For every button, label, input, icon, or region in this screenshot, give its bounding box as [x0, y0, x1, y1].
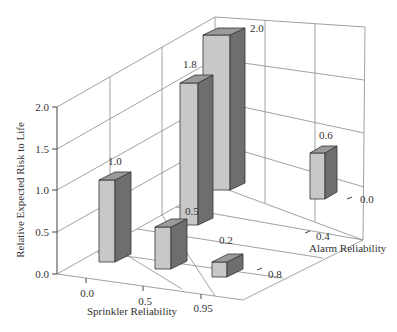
svg-text:0.6: 0.6 [319, 129, 333, 141]
svg-text:0.5: 0.5 [35, 226, 49, 238]
chart-3d-bar: 2.0 1.5 1.0 0.5 0.0 0.0 0.5 0.95 Sprinkl… [0, 0, 397, 332]
bar-0-6 [310, 146, 337, 199]
z-tick-labels: 2.0 1.5 1.0 0.5 0.0 [35, 101, 49, 280]
svg-text:0.4: 0.4 [316, 230, 330, 242]
bar-1-8 [180, 75, 213, 225]
bar-0-2 [212, 254, 243, 277]
svg-text:0.0: 0.0 [80, 287, 94, 299]
svg-text:0.5: 0.5 [185, 205, 199, 217]
bar-1-0 [99, 172, 131, 262]
svg-text:0.0: 0.0 [360, 193, 374, 205]
x-axis-label: Sprinkler Reliability [87, 305, 178, 317]
bar-0-5 [155, 219, 187, 269]
z-axis [52, 107, 57, 274]
z-axis-label: Relative Expected Risk to Life [14, 122, 26, 258]
svg-text:1.0: 1.0 [35, 184, 49, 196]
bars [99, 28, 337, 277]
y-axis-label: Alarm Reliability [309, 242, 387, 254]
svg-text:0.0: 0.0 [35, 268, 49, 280]
svg-text:0.8: 0.8 [268, 268, 282, 280]
y-tick-labels: 0.0 0.4 0.8 [268, 193, 374, 280]
svg-text:2.0: 2.0 [250, 22, 264, 34]
svg-text:2.0: 2.0 [35, 101, 49, 113]
y-tick-marks [257, 197, 352, 270]
svg-text:0.2: 0.2 [219, 234, 233, 246]
chart-canvas: 2.0 1.5 1.0 0.5 0.0 0.0 0.5 0.95 Sprinkl… [0, 0, 397, 332]
svg-text:1.0: 1.0 [108, 155, 122, 167]
svg-text:1.5: 1.5 [35, 143, 49, 155]
svg-text:0.95: 0.95 [193, 302, 213, 314]
svg-text:1.8: 1.8 [183, 58, 197, 70]
